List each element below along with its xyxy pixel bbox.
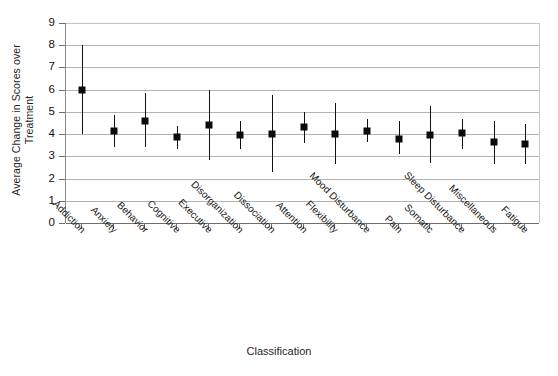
- gridline: [66, 156, 539, 157]
- data-point-marker: [363, 127, 370, 134]
- data-point-marker: [522, 141, 529, 148]
- gridline: [66, 90, 539, 91]
- y-axis-tick-label: 4: [15, 128, 55, 140]
- data-point-marker: [110, 127, 117, 134]
- data-point-marker: [237, 132, 244, 139]
- y-axis-tick-label: 9: [15, 17, 55, 29]
- data-point-marker: [142, 117, 149, 124]
- gridline: [66, 45, 539, 46]
- y-axis-tick-label: 5: [15, 106, 55, 118]
- data-point-marker: [268, 131, 275, 138]
- y-axis-tick-label: 6: [15, 84, 55, 96]
- data-point-marker: [205, 122, 212, 129]
- gridline: [66, 179, 539, 180]
- gridline: [66, 67, 539, 68]
- chart-figure: Average Change in Scores over Treatment …: [0, 0, 558, 376]
- y-axis-tick-label: 3: [15, 150, 55, 162]
- data-point-marker: [395, 135, 402, 142]
- y-axis-tick-label: 1: [15, 195, 55, 207]
- y-axis-tick-label: 7: [15, 61, 55, 73]
- data-point-marker: [490, 138, 497, 145]
- data-point-marker: [427, 132, 434, 139]
- data-point-marker: [458, 130, 465, 137]
- x-axis-title: Classification: [0, 345, 558, 357]
- y-axis-tick-label: 2: [15, 173, 55, 185]
- data-point-marker: [78, 86, 85, 93]
- gridline: [66, 134, 539, 135]
- y-axis-tick: [59, 223, 65, 224]
- gridline: [66, 23, 539, 24]
- plot-area: [65, 23, 540, 223]
- y-axis-tick-label: 0: [15, 217, 55, 229]
- data-point-marker: [332, 131, 339, 138]
- y-axis-tick-label: 8: [15, 39, 55, 51]
- data-point-marker: [300, 124, 307, 131]
- data-point-marker: [173, 134, 180, 141]
- gridline: [66, 112, 539, 113]
